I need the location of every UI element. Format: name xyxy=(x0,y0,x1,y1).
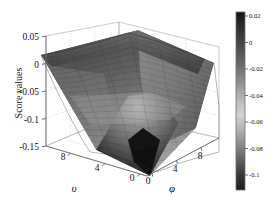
z-tick-marks xyxy=(42,36,46,147)
y-tick-label-1: 4 xyxy=(95,163,100,173)
z-tick-label-3: -0.1 xyxy=(24,115,39,125)
colorbar-tick-label-5: -0.08 xyxy=(249,145,263,152)
x-axis-name: φ xyxy=(169,182,175,194)
x-tick-label-2: 8 xyxy=(198,151,203,161)
surface-plot-svg: 0.05 0 -0.05 -0.1 -0.15 8 4 0 0 4 8 Scor… xyxy=(0,0,272,211)
colorbar-tick-label-1: 0 xyxy=(249,39,253,46)
colorbar-tick-label-2: -0.02 xyxy=(249,65,263,72)
y-axis-name: υ xyxy=(71,182,76,194)
colorbar-tick-labels: 0.02 0 -0.02 -0.04 -0.06 -0.08 -0.1 xyxy=(249,12,263,178)
colorbar-tick-label-0: 0.02 xyxy=(249,12,261,19)
colorbar-tick-label-6: -0.1 xyxy=(249,171,259,178)
x-tick-label-0: 0 xyxy=(146,176,151,186)
colorbar-tick-label-3: -0.04 xyxy=(249,92,263,99)
z-tick-label-4: -0.15 xyxy=(19,142,39,152)
z-tick-label-0: 0.05 xyxy=(22,32,39,42)
x-tick-label-1: 4 xyxy=(173,164,178,174)
figure-canvas: 0.05 0 -0.05 -0.1 -0.15 8 4 0 0 4 8 Scor… xyxy=(0,0,272,211)
y-tick-label-2: 0 xyxy=(130,173,135,183)
colorbar-tick-marks xyxy=(245,16,248,175)
colorbar-tick-label-4: -0.06 xyxy=(249,118,263,125)
z-axis-title: Score values xyxy=(13,67,24,118)
y-tick-label-0: 8 xyxy=(61,152,66,162)
surface-mesh xyxy=(41,30,219,176)
colorbar-gradient xyxy=(236,12,245,190)
z-tick-label-1: 0 xyxy=(34,60,39,70)
colorbar[interactable]: 0.02 0 -0.02 -0.04 -0.06 -0.08 -0.1 xyxy=(236,12,263,190)
